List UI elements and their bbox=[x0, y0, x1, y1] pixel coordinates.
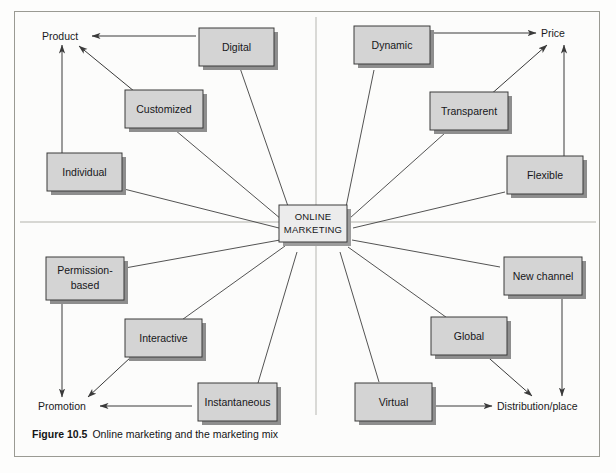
node-newchannel[interactable]: New channel bbox=[504, 257, 586, 299]
connector-center-permission bbox=[125, 240, 280, 268]
node-transparent-label: Transparent bbox=[441, 105, 497, 117]
node-interactive-label: Interactive bbox=[139, 332, 188, 344]
axis-label-price: Price bbox=[541, 27, 565, 39]
node-virtual-label: Virtual bbox=[379, 396, 409, 408]
arrow-customized-to-product bbox=[79, 46, 140, 96]
axis-label-place: Distribution/place bbox=[497, 400, 578, 412]
node-digital[interactable]: Digital bbox=[199, 28, 278, 70]
node-newchannel-label: New channel bbox=[513, 270, 574, 282]
node-transparent[interactable]: Transparent bbox=[430, 92, 512, 134]
connector-center-global bbox=[348, 247, 450, 320]
node-virtual[interactable]: Virtual bbox=[355, 383, 436, 425]
connector-center-newchannel bbox=[352, 240, 500, 267]
node-customized[interactable]: Customized bbox=[125, 90, 207, 132]
connector-center-instantaneous bbox=[258, 252, 297, 383]
node-digital-label: Digital bbox=[222, 41, 251, 53]
node-permission-label-line2: based bbox=[71, 279, 100, 291]
node-permission-label-line1: Permission- bbox=[57, 264, 113, 276]
arrow-transparent-to-price bbox=[489, 45, 547, 96]
figure-caption: Figure 10.5Online marketing and the mark… bbox=[32, 428, 278, 440]
node-individual[interactable]: Individual bbox=[47, 153, 126, 195]
online-marketing-diagram: Digital Customized Individual Dynamic Tr… bbox=[0, 0, 616, 473]
node-instantaneous-label: Instantaneous bbox=[205, 396, 271, 408]
arrow-interactive-to-promotion bbox=[88, 357, 131, 397]
connector-center-transparent bbox=[350, 133, 445, 218]
node-dynamic[interactable]: Dynamic bbox=[354, 26, 434, 68]
node-flexible-label: Flexible bbox=[527, 169, 563, 181]
axis-label-promotion: Promotion bbox=[38, 400, 86, 412]
figure-caption-number: Figure 10.5 bbox=[32, 428, 87, 440]
figure-caption-text: Online marketing and the marketing mix bbox=[92, 428, 278, 440]
figure-container: Digital Customized Individual Dynamic Tr… bbox=[0, 0, 616, 473]
node-permission[interactable]: Permission- based bbox=[46, 257, 128, 304]
axis-label-product: Product bbox=[42, 30, 78, 42]
node-dynamic-label: Dynamic bbox=[372, 39, 413, 51]
node-global-label: Global bbox=[454, 330, 484, 342]
node-instantaneous[interactable]: Instantaneous bbox=[198, 383, 281, 425]
node-individual-label: Individual bbox=[62, 166, 106, 178]
node-interactive[interactable]: Interactive bbox=[125, 319, 206, 361]
connector-center-virtual bbox=[340, 252, 379, 382]
center-label-line1: ONLINE bbox=[295, 211, 332, 222]
node-customized-label: Customized bbox=[136, 103, 192, 115]
center-label-line2: MARKETING bbox=[284, 224, 342, 235]
node-online-marketing[interactable]: ONLINE MARKETING bbox=[279, 205, 351, 246]
node-flexible[interactable]: Flexible bbox=[507, 156, 587, 198]
node-global[interactable]: Global bbox=[431, 317, 511, 359]
connector-center-interactive bbox=[179, 246, 285, 322]
connector-center-dynamic bbox=[345, 70, 374, 212]
